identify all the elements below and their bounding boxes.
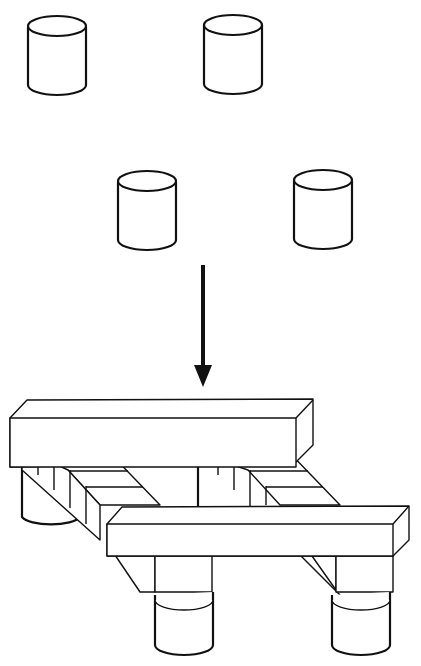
assembled-structure [10,399,409,655]
diagram-canvas [0,0,421,666]
cylinder-top-left [28,16,86,95]
down-arrow-icon [194,265,212,387]
cylinder-top-right [204,15,262,94]
cylinder-mid-left [118,171,176,250]
cylinder-mid-right [294,170,352,249]
